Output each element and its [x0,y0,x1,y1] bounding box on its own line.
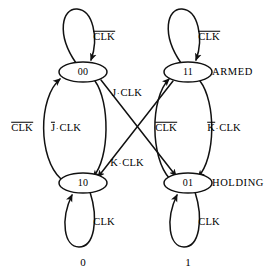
column-label-0: 0 [80,257,86,268]
edge-label-11-to-01: K·CLK [207,123,241,134]
edge-label-01-self: CLK [198,217,220,228]
edge-01-self [170,192,200,247]
edge-11-self [168,9,199,63]
edge-label-10-self: CLK [93,217,115,228]
edge-10-self [65,192,95,247]
state-label-10: 10 [78,178,88,188]
edge-label-11-self: CLK [198,32,220,43]
state-label-00: 00 [78,67,88,77]
edge-label-11-to-10: K·CLK [110,158,144,169]
edge-label-01-to-11: CLK [155,123,177,134]
diagram-canvas [0,0,279,276]
edge-label-00-self: CLK [93,32,115,43]
row-label-armed: ARMED [212,67,253,78]
state-label-01: 01 [183,178,193,188]
edge-00-self [63,9,94,63]
row-label-holding: HOLDING [212,178,264,189]
edge-label-00-to-10: J·CLK [51,123,81,134]
edge-label-10-to-00: CLK [11,123,33,134]
state-diagram: 00 11 10 01 ARMED HOLDING 0 1 CLK CLK CL… [0,0,279,276]
state-label-11: 11 [183,67,193,77]
column-label-1: 1 [185,257,191,268]
edge-00-to-10 [93,81,106,177]
edge-label-00-to-01: J·CLK [112,88,142,99]
